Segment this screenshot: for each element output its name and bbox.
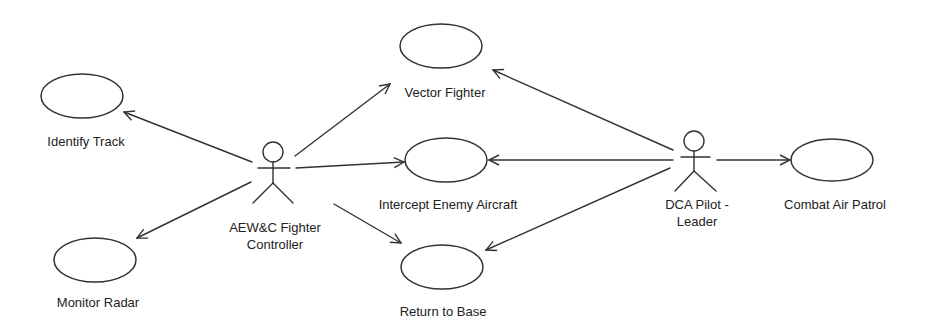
- use-case-diagram: Identify Track Monitor Radar Vector Figh…: [0, 0, 936, 332]
- use-case-intercept-enemy-aircraft[interactable]: [405, 138, 487, 182]
- use-case-label-intercept-enemy-aircraft: Intercept Enemy Aircraft: [379, 197, 518, 213]
- use-case-label-combat-air-patrol: Combat Air Patrol: [784, 197, 886, 213]
- use-case-label-vector-fighter: Vector Fighter: [405, 85, 486, 101]
- actor-label-aewc: AEW&C Fighter Controller: [229, 219, 321, 253]
- use-case-combat-air-patrol[interactable]: [791, 139, 873, 181]
- association-aewc-vector-fighter: [295, 84, 390, 156]
- actor-label-dca-line1: DCA Pilot -: [665, 196, 729, 213]
- use-case-label-return-to-base: Return to Base: [400, 304, 487, 320]
- use-case-label-monitor-radar: Monitor Radar: [57, 295, 139, 311]
- association-aewc-intercept-enemy-aircraft: [296, 162, 404, 168]
- association-aewc-identify-track: [124, 112, 252, 162]
- use-case-vector-fighter[interactable]: [400, 24, 482, 68]
- use-case-return-to-base[interactable]: [401, 245, 483, 289]
- actor-dca-stick-figure-icon[interactable]: [675, 131, 716, 191]
- actor-label-aewc-line2: Controller: [229, 236, 321, 253]
- use-case-monitor-radar[interactable]: [54, 238, 136, 282]
- actor-label-dca: DCA Pilot - Leader: [665, 196, 729, 230]
- use-case-label-identify-track: Identify Track: [47, 134, 124, 150]
- actor-aewc-stick-figure-icon[interactable]: [253, 142, 293, 203]
- actor-label-dca-line2: Leader: [665, 213, 729, 230]
- association-dca-vector-fighter: [493, 70, 673, 150]
- use-case-identify-track[interactable]: [41, 74, 123, 118]
- diagram-canvas: [0, 0, 936, 332]
- actor-label-aewc-line1: AEW&C Fighter: [229, 219, 321, 236]
